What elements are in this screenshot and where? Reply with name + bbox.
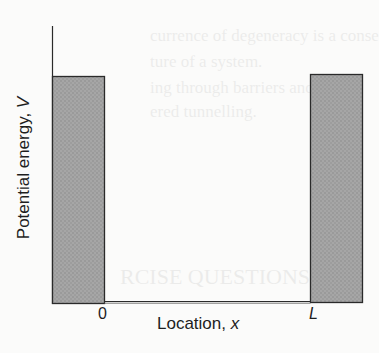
x-axis-label-text: Location, [157,314,231,333]
left-wall-barrier [53,77,105,304]
x-axis-label: Location, x [157,314,239,334]
y-axis-label-text: Potential energy, [14,108,33,239]
y-axis-variable: V [14,97,33,108]
right-wall-barrier [311,75,363,303]
y-axis-label: Potential energy, V [14,53,36,283]
tick-label-L: L [309,305,318,323]
x-axis-variable: x [231,314,240,333]
tick-label-zero: 0 [98,305,107,323]
square-well-diagram [0,0,379,353]
